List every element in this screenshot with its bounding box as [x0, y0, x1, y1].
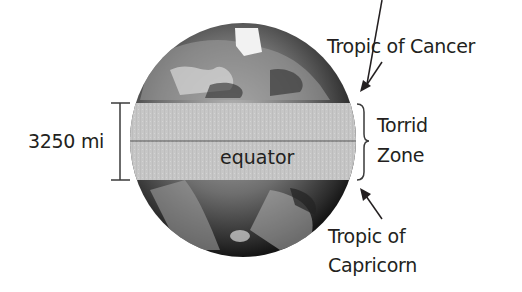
tropic-of-capricorn-label-line1: Tropic of: [328, 225, 405, 247]
tropic-capricorn-arrow: [360, 188, 382, 219]
equator-label: equator: [220, 146, 294, 168]
torrid-zone-label-line2: Zone: [377, 144, 424, 166]
tropic-of-cancer-label: Tropic of Cancer: [327, 35, 475, 57]
torrid-zone-diagram: Tropic of Cancer Torrid Zone Tropic of C…: [0, 0, 522, 292]
torrid-zone-brace: [357, 104, 369, 180]
width-measure-bracket: [111, 103, 130, 180]
width-measure-label: 3250 mi: [28, 130, 104, 152]
tropic-of-capricorn-label-line2: Capricorn: [328, 254, 417, 276]
torrid-zone-label-line1: Torrid: [377, 114, 428, 136]
